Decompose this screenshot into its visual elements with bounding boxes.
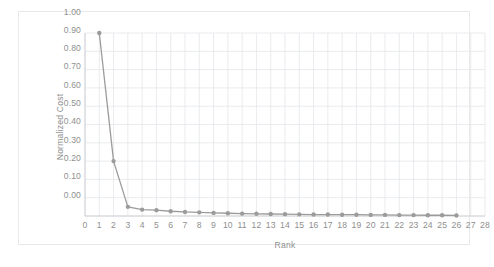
y-axis-tick-label: 0.50 xyxy=(37,99,81,108)
y-axis-tick-label: 0.70 xyxy=(37,62,81,71)
y-axis-tick-label: 0.80 xyxy=(37,44,81,53)
y-axis-tick-labels: 0.000.100.200.300.400.500.600.700.800.90… xyxy=(33,12,81,195)
y-axis-tick-label: 0.40 xyxy=(37,117,81,126)
y-axis-tick-label: 0.20 xyxy=(37,154,81,163)
x-axis-tick-labels: 0123456789101112131415161718192021222324… xyxy=(85,220,485,234)
x-axis-tick-label: 28 xyxy=(475,220,494,230)
x-axis-title: Rank xyxy=(85,240,485,250)
y-axis-tick-label: 0.10 xyxy=(37,172,81,181)
plot-area xyxy=(85,33,485,216)
y-axis-tick-label: 0.90 xyxy=(37,26,81,35)
y-axis-tick-label: 0.30 xyxy=(37,136,81,145)
chart-figure: Normalized Cost 0.000.100.200.300.400.50… xyxy=(0,0,494,267)
data-series-normalized-cost xyxy=(85,33,485,216)
chart-frame: Normalized Cost 0.000.100.200.300.400.50… xyxy=(18,11,470,245)
y-axis-tick-label: 0.60 xyxy=(37,81,81,90)
y-axis-tick-label: 1.00 xyxy=(37,8,81,17)
y-axis-tick-label: 0.00 xyxy=(37,191,81,200)
